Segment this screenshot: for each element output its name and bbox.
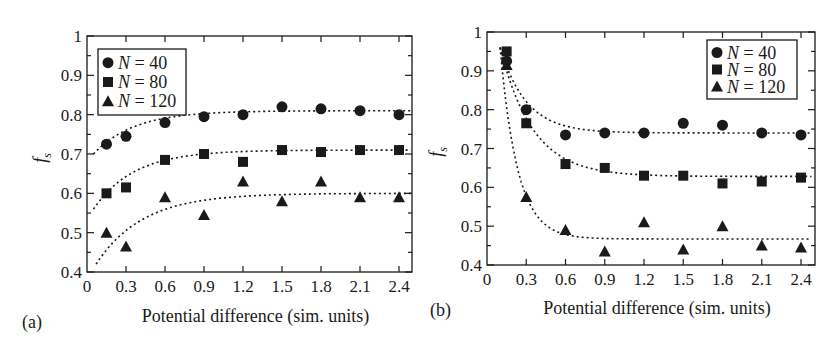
data-point-square [521, 118, 531, 128]
data-point-triangle [717, 220, 729, 231]
data-point-square [678, 171, 688, 181]
x-tick-label: 0.3 [115, 277, 136, 296]
legend-entry: N = 120 [117, 91, 176, 111]
data-point-triangle [599, 245, 611, 256]
data-point-triangle [315, 176, 327, 187]
y-tick-label: 1 [474, 23, 483, 42]
panel-label: (b) [430, 300, 451, 321]
fit-curve [96, 193, 411, 264]
data-point-square [238, 157, 248, 167]
x-tick-label: 2.1 [349, 277, 370, 296]
data-point-square [316, 147, 326, 157]
y-tick-label: 1 [74, 27, 83, 46]
legend-entry: N = 120 [726, 77, 785, 97]
x-tick-label: 2.4 [790, 270, 812, 289]
data-point-square [355, 145, 365, 155]
data-point-circle [316, 103, 327, 114]
data-point-square [121, 182, 131, 192]
x-tick-label: 2.1 [751, 270, 772, 289]
legend-entry: N = 40 [117, 53, 167, 73]
square-icon [103, 77, 113, 87]
x-tick-label: 1.8 [712, 270, 733, 289]
x-tick-label: 0 [83, 277, 92, 296]
data-point-triangle [198, 209, 210, 220]
y-tick-label: 0.9 [61, 66, 82, 85]
x-tick-label: 0.3 [516, 270, 537, 289]
x-tick-label: 0.9 [594, 270, 615, 289]
x-tick-label: 0.6 [555, 270, 576, 289]
data-point-circle [521, 104, 532, 115]
chart-panel-a: 00.30.60.91.21.51.82.12.40.40.50.60.70.8… [22, 27, 412, 333]
y-tick-label: 0.6 [61, 184, 82, 203]
data-point-square [757, 177, 767, 187]
data-point-square [277, 145, 287, 155]
data-point-circle [678, 118, 689, 129]
data-point-circle [238, 109, 249, 120]
data-point-triangle [560, 224, 572, 235]
data-point-square [160, 155, 170, 165]
data-point-circle [796, 129, 807, 140]
figure: 00.30.60.91.21.51.82.12.40.40.50.60.70.8… [0, 0, 834, 344]
y-tick-label: 0.7 [461, 140, 483, 159]
y-tick-label: 0.7 [61, 145, 83, 164]
legend: N = 40N = 80N = 120 [707, 40, 797, 99]
data-point-square [561, 159, 571, 169]
x-axis-title: Potential difference (sim. units) [543, 298, 771, 319]
y-tick-label: 0.8 [461, 101, 482, 120]
data-point-circle [160, 117, 171, 128]
y-tick-label: 0.9 [461, 62, 482, 81]
data-point-triangle [120, 240, 132, 251]
data-point-circle [277, 101, 288, 112]
x-tick-label: 0 [483, 270, 492, 289]
data-point-circle [355, 105, 366, 116]
data-point-triangle [756, 240, 768, 251]
y-tick-label: 0.4 [61, 263, 83, 282]
data-point-circle [394, 109, 405, 120]
y-tick-label: 0.5 [61, 224, 82, 243]
data-point-square [796, 173, 806, 183]
legend: N = 40N = 80N = 120 [98, 49, 186, 115]
y-tick-label: 0.6 [461, 178, 482, 197]
x-axis-title: Potential difference (sim. units) [142, 306, 370, 327]
circle-icon [712, 47, 723, 58]
data-point-square [394, 145, 404, 155]
data-point-triangle [520, 191, 532, 202]
y-tick-label: 0.5 [461, 217, 482, 236]
data-point-square [639, 171, 649, 181]
data-point-circle [717, 120, 728, 131]
data-point-triangle [237, 176, 249, 187]
data-point-triangle [638, 216, 650, 227]
y-axis-title: fs [30, 153, 54, 163]
x-tick-label: 1.5 [271, 277, 292, 296]
data-point-square [502, 46, 512, 56]
data-point-square [102, 188, 112, 198]
data-point-circle [101, 139, 112, 150]
square-icon [712, 65, 722, 75]
panel-label: (a) [22, 312, 42, 333]
data-point-square [718, 178, 728, 188]
x-tick-label: 0.9 [193, 277, 214, 296]
data-point-circle [121, 131, 132, 142]
data-point-circle [599, 127, 610, 138]
data-point-square [600, 163, 610, 173]
data-point-triangle [101, 227, 113, 238]
x-tick-label: 1.5 [673, 270, 694, 289]
x-tick-label: 1.8 [310, 277, 331, 296]
data-point-circle [756, 127, 767, 138]
y-axis-title: fs [426, 147, 450, 157]
circle-icon [103, 57, 114, 68]
data-point-circle [560, 129, 571, 140]
data-point-circle [639, 127, 650, 138]
data-point-triangle [159, 191, 171, 202]
x-tick-label: 1.2 [633, 270, 654, 289]
data-point-square [199, 149, 209, 159]
y-tick-label: 0.8 [61, 106, 82, 125]
x-tick-label: 2.4 [388, 277, 410, 296]
data-point-triangle [677, 243, 689, 254]
chart-panel-b: 00.30.60.91.21.51.82.12.40.40.50.60.70.8… [426, 23, 815, 321]
x-tick-label: 1.2 [232, 277, 253, 296]
data-point-triangle [795, 242, 807, 253]
legend-entry: N = 80 [117, 72, 167, 92]
y-tick-label: 0.4 [461, 256, 483, 275]
data-point-triangle [276, 195, 288, 206]
